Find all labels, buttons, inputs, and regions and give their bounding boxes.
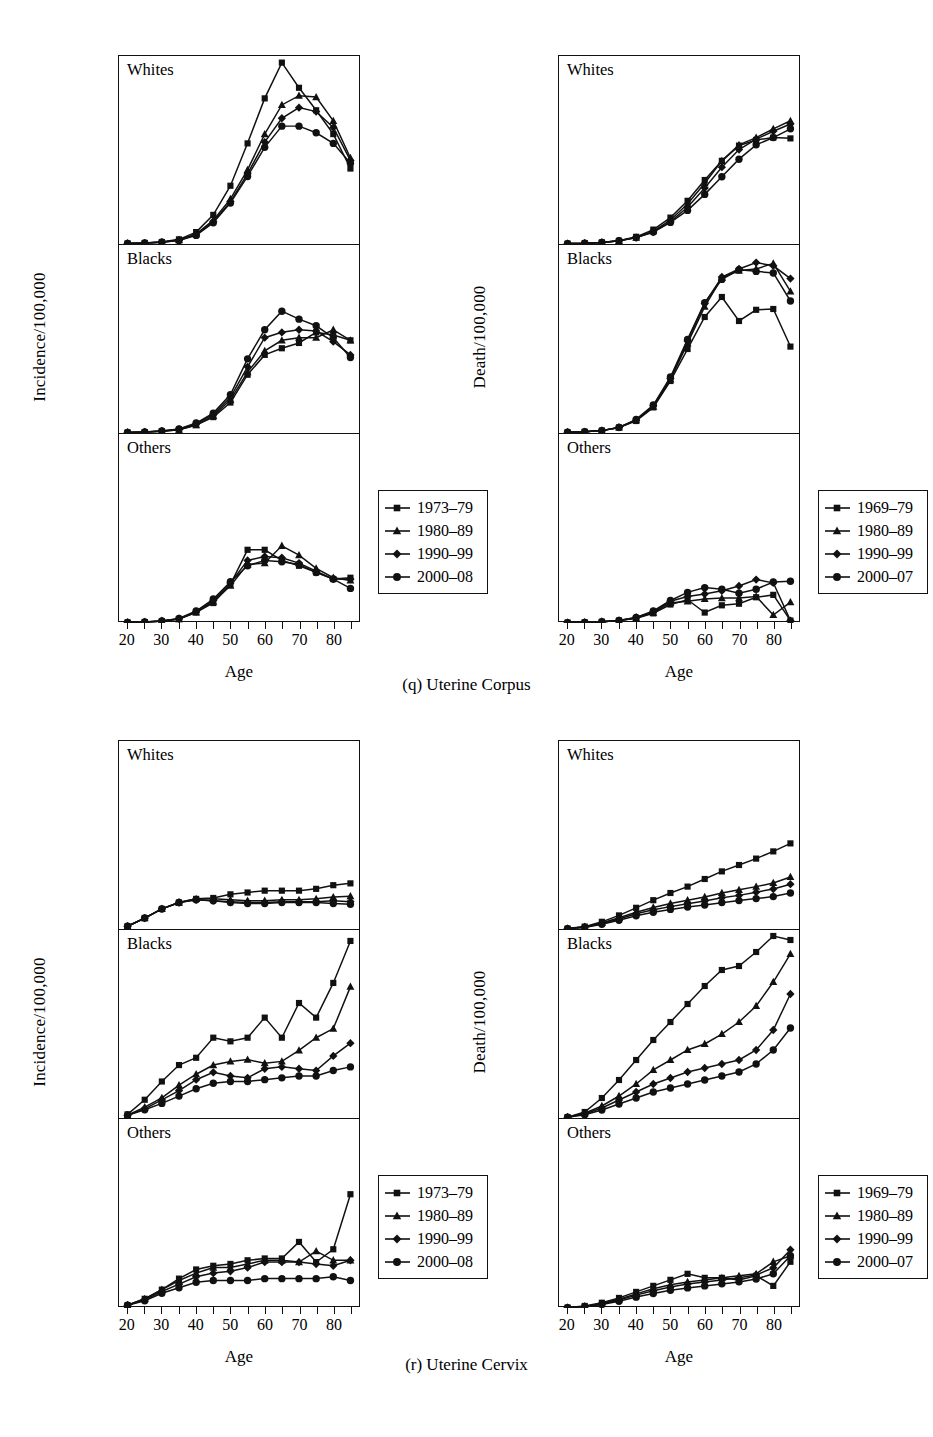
x-tick-label: 50 [662, 1316, 678, 1334]
legend-item[interactable]: 1980–89 [384, 1204, 479, 1227]
series-layer [119, 930, 359, 1118]
data-point [278, 101, 286, 108]
x-tick-mark [213, 1307, 214, 1314]
legend-marker-diamond-icon [824, 1232, 854, 1246]
data-point [752, 1275, 759, 1282]
legend-item[interactable]: 1990–99 [824, 542, 919, 565]
data-point [667, 373, 674, 380]
data-point [279, 1035, 285, 1041]
x-tick-label: 40 [628, 631, 644, 649]
data-point [719, 602, 725, 608]
legend-label: 1973–79 [414, 1184, 473, 1202]
data-point [227, 899, 234, 906]
legend-item[interactable]: 2000–08 [384, 1250, 479, 1273]
x-tick-label: 50 [222, 1316, 238, 1334]
data-point [244, 889, 250, 895]
data-point [752, 1060, 759, 1067]
legend-item[interactable]: 1980–89 [384, 519, 479, 542]
legend-item[interactable]: 1973–79 [384, 496, 479, 519]
legend-item[interactable]: 1973–79 [384, 1181, 479, 1204]
legend-item[interactable]: 2000–08 [384, 565, 479, 588]
data-point [770, 848, 776, 854]
data-point [278, 1275, 285, 1282]
x-tick-mark [317, 1307, 318, 1314]
data-point [632, 234, 639, 241]
x-tick-mark [601, 622, 602, 629]
data-point [262, 888, 268, 894]
x-tick-mark [601, 1307, 602, 1314]
data-point [312, 1072, 319, 1079]
x-tick-mark [317, 622, 318, 629]
subpanel-whites: Whites5101520 [559, 56, 799, 245]
legend-marker-triangle-icon [384, 1209, 414, 1223]
plot-stack: Whites306090120Blacks306090120Others3060… [118, 55, 360, 622]
data-point [141, 428, 148, 433]
data-point [650, 607, 657, 614]
legend-marker-circle-icon [824, 570, 854, 584]
legend-item[interactable]: 1990–99 [384, 542, 479, 565]
legend-label: 1969–79 [854, 1184, 913, 1202]
data-point [667, 1084, 674, 1091]
legend-item[interactable]: 1980–89 [824, 519, 919, 542]
data-point [719, 294, 725, 300]
x-tick-label: 40 [188, 1316, 204, 1334]
data-point [786, 598, 794, 605]
legend-item[interactable]: 1969–79 [824, 496, 919, 519]
x-tick-mark [757, 1307, 758, 1314]
x-tick-mark [265, 622, 266, 629]
data-point [312, 569, 319, 576]
figure-caption-r: (r) Uterine Cervix [0, 1355, 933, 1375]
x-tick-mark [722, 622, 723, 629]
data-point [226, 1267, 234, 1275]
data-point [261, 144, 268, 151]
legend-marker-square-icon [384, 501, 414, 515]
data-point [244, 173, 251, 180]
data-point [718, 586, 725, 593]
x-tick-mark [300, 1307, 301, 1314]
data-point [227, 1038, 233, 1044]
data-point [633, 1057, 639, 1063]
data-point [702, 876, 708, 882]
data-point [736, 318, 742, 324]
legend-label: 2000–08 [414, 1253, 473, 1271]
data-point [770, 306, 776, 312]
data-point [753, 856, 759, 862]
x-tick-label: 60 [697, 631, 713, 649]
data-point [718, 1030, 726, 1037]
data-point [667, 597, 674, 604]
legend-item[interactable]: 2000–07 [824, 1250, 919, 1273]
x-tick-label: 20 [119, 631, 135, 649]
y-axis-title: Incidence/100,000 [30, 912, 50, 1132]
legend: 1969–791980–891990–992000–07 [818, 1175, 928, 1279]
legend-label: 1990–99 [414, 1230, 473, 1248]
data-point [330, 140, 337, 147]
data-point [786, 287, 794, 294]
x-tick-mark [791, 1307, 792, 1314]
data-point [786, 873, 794, 880]
data-point [142, 1097, 148, 1103]
legend-item[interactable]: 1990–99 [824, 1227, 919, 1250]
x-tick-mark [670, 1307, 671, 1314]
data-point [719, 868, 725, 874]
data-point [752, 141, 759, 148]
data-point [615, 1100, 622, 1107]
data-point [753, 949, 759, 955]
data-point [701, 191, 708, 198]
data-point [278, 122, 285, 129]
series-line-1990–99 [128, 330, 351, 433]
legend-label: 1980–89 [414, 522, 473, 540]
x-tick-label: 80 [326, 1316, 342, 1334]
data-point [735, 1068, 742, 1075]
data-point [295, 103, 303, 111]
x-tick-label: 30 [153, 1316, 169, 1334]
data-point [770, 1046, 777, 1053]
data-point [787, 889, 794, 896]
subpanel-whites: Whites10203040 [559, 741, 799, 930]
legend-item[interactable]: 2000–07 [824, 565, 919, 588]
subpanel-blacks: Blacks306090120 [119, 245, 359, 434]
data-point [701, 1040, 709, 1047]
legend-item[interactable]: 1969–79 [824, 1181, 919, 1204]
legend-item[interactable]: 1990–99 [384, 1227, 479, 1250]
legend-item[interactable]: 1980–89 [824, 1204, 919, 1227]
subpanel-others: Others5101520 [559, 434, 799, 623]
